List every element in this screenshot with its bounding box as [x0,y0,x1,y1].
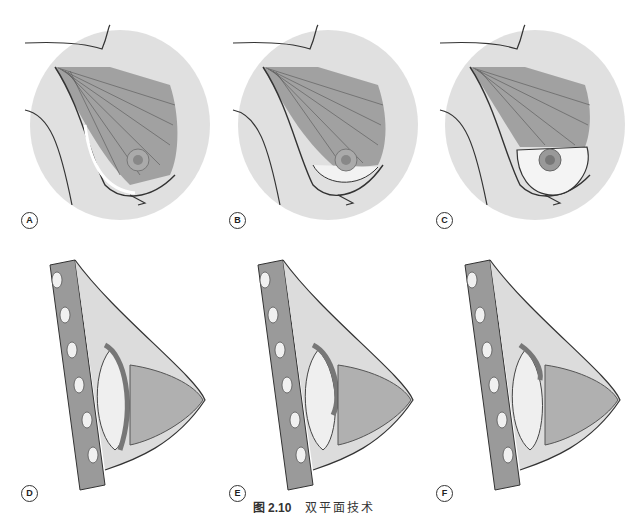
figure-title: 双平面技术 [305,501,375,515]
panel-label-b: B [229,212,246,229]
sagittal-breast-illustration [450,255,628,495]
panel-c-frontal-illustration [425,5,625,220]
panel-b-frontal-illustration [218,5,418,220]
panel-label-c: C [436,212,453,229]
frontal-breast-illustration [10,5,210,220]
panel-label-a: A [21,212,38,229]
panel-e-sagittal-illustration [243,255,423,495]
frontal-breast-illustration [425,5,625,220]
panel-f-sagittal-illustration [450,255,628,495]
panel-d-sagittal-illustration [35,255,215,495]
frontal-breast-illustration [218,5,418,220]
sagittal-breast-illustration [243,255,423,495]
figure-caption: 图 2.10 双平面技术 [0,498,628,515]
panel-a-frontal-illustration [10,5,210,220]
sagittal-breast-illustration [35,255,215,495]
figure-number: 图 2.10 [253,501,292,515]
